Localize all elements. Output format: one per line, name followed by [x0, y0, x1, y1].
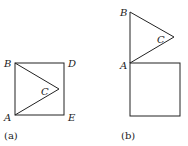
label-b: B: [119, 7, 127, 18]
label-a: A: [119, 60, 127, 71]
triangle-bca: [130, 12, 174, 63]
square-bdea: [15, 63, 64, 115]
label-d: D: [67, 58, 76, 69]
label-e: E: [67, 112, 76, 123]
label-c: C: [157, 34, 165, 45]
figure-a: B D A E C (a): [3, 58, 76, 141]
triangle-bca: [15, 63, 59, 115]
figure-b: B A C (b): [119, 7, 180, 141]
diagram-canvas: B D A E C (a) B A C (b): [0, 0, 188, 146]
label-c: C: [41, 86, 49, 97]
square: [130, 63, 180, 116]
label-a: A: [3, 112, 11, 123]
label-b: B: [3, 58, 11, 69]
caption-b: (b): [121, 130, 135, 141]
caption-a: (a): [4, 130, 18, 141]
